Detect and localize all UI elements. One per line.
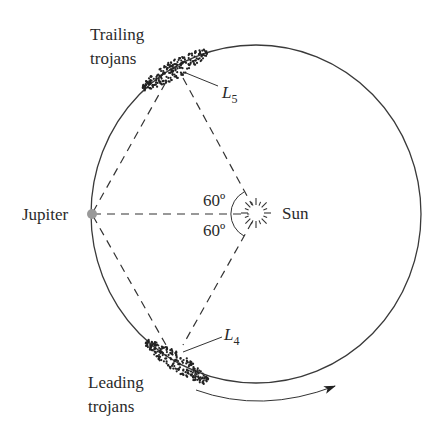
l5-leader-line <box>186 73 218 86</box>
sun-icon <box>241 198 271 228</box>
angle-upper-label: 60º <box>203 191 225 210</box>
sun-label: Sun <box>282 204 309 223</box>
leading-trojans-label-line2: trojans <box>88 397 134 416</box>
jupiter-planet-icon <box>87 209 97 219</box>
trailing-trojans-label-line2: trojans <box>90 49 136 68</box>
l5-label: L5 <box>221 83 237 106</box>
trojan-diagram: 60º 60º Sun Jupiter L5 Trailing trojans … <box>0 0 440 430</box>
jupiter-label: Jupiter <box>22 205 69 224</box>
angle-lower-label: 60º <box>203 221 225 240</box>
l4-leader-line <box>183 337 222 352</box>
leading-trojans-label-line1: Leading <box>88 373 144 392</box>
sun-l4-line <box>183 222 252 345</box>
sun-l5-line <box>183 78 252 205</box>
trailing-trojans-cluster <box>142 49 208 92</box>
trailing-trojans-label-line1: Trailing <box>90 25 145 44</box>
l4-label: L4 <box>223 325 239 348</box>
orbital-motion-arrow <box>196 386 335 401</box>
